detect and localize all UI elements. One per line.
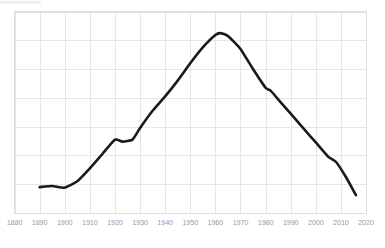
x-tick-label: 1890 (32, 218, 48, 227)
x-tick-label: 2010 (333, 218, 349, 227)
x-tick-label: 2000 (308, 218, 324, 227)
grid-layer (15, 12, 367, 214)
x-tick-label: 1930 (132, 218, 148, 227)
series-layer (40, 33, 356, 195)
x-tick-label: 1970 (233, 218, 249, 227)
x-tick-label: 1950 (182, 218, 198, 227)
x-tick-label: 2020 (358, 218, 374, 227)
x-tick-label: 1980 (258, 218, 274, 227)
x-tick-label: 1910 (82, 218, 98, 227)
x-tick-label: 1900 (57, 218, 73, 227)
x-tick-label: 1940 (157, 218, 173, 227)
x-tick-label: 1880 (7, 218, 23, 227)
line-chart-plot (0, 0, 385, 248)
x-tick-label: 1990 (283, 218, 299, 227)
data-line-series-1 (40, 33, 356, 195)
x-tick-label: 1920 (107, 218, 123, 227)
x-tick-label: 1960 (208, 218, 224, 227)
chart-figure: 1880189019001910192019301940195019601970… (0, 0, 385, 248)
